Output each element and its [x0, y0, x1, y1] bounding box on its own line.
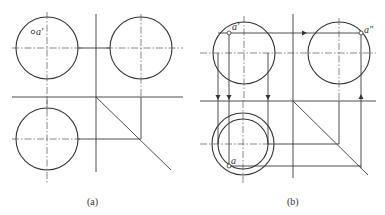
45-degree-miter-line [96, 97, 171, 170]
arrow-right-icon [302, 31, 307, 36]
point-a-double-prime-label: a″ [364, 24, 374, 35]
arrow-down-icon [227, 95, 232, 100]
projection-diagram: a′ (a) [0, 0, 385, 215]
panel-a: a′ (a) [12, 12, 183, 208]
point-a-prime-marker [227, 31, 231, 35]
arrow-down-icon [216, 95, 221, 100]
panel-b: a′ a″ a (b) [200, 14, 376, 208]
point-a-label: a [231, 155, 236, 166]
point-a-double-prime-marker [359, 31, 363, 35]
caption-a: (a) [87, 196, 98, 208]
arrow-up-icon [359, 94, 364, 99]
caption-b: (b) [287, 196, 299, 208]
point-a-prime-label: a′ [232, 21, 240, 32]
45-degree-miter-line [293, 101, 368, 175]
arrow-down-icon [266, 95, 271, 100]
point-a-prime-label: a′ [36, 26, 44, 37]
point-a-prime-marker [31, 30, 35, 34]
